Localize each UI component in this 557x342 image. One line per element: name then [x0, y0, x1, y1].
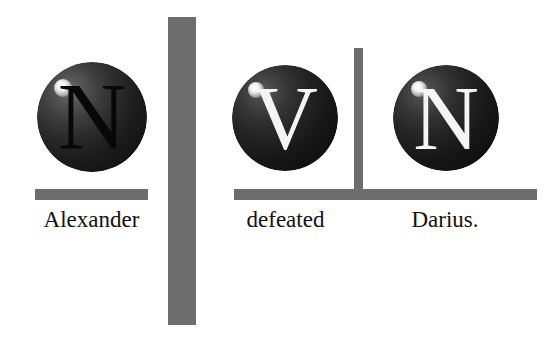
baseline-bar-predicate — [234, 189, 537, 200]
sphere-letter: V — [232, 73, 338, 164]
caption-darius: Darius. — [396, 207, 494, 233]
clause-divider-thick-bar — [168, 17, 196, 325]
sphere-n-alexander: N — [37, 62, 147, 172]
sphere-v-defeated: V — [232, 65, 338, 171]
baseline-bar-subject — [35, 189, 148, 200]
sphere-n-darius: N — [393, 65, 499, 171]
caption-defeated: defeated — [232, 207, 339, 233]
sphere-letter: N — [393, 73, 499, 164]
caption-alexander: Alexander — [30, 207, 153, 233]
diagram-canvas: N V N Alexander defeated Darius. — [0, 0, 557, 342]
phrase-divider-thin-bar — [354, 48, 363, 199]
sphere-letter: N — [37, 70, 147, 165]
